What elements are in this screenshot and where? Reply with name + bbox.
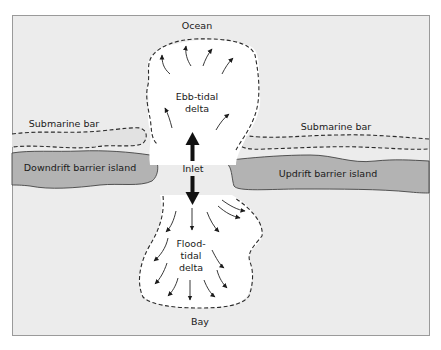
updrift-barrier-island-label: Updrift barrier island	[279, 168, 378, 179]
submarine-bar-right-label: Submarine bar	[301, 121, 371, 132]
inlet-label: Inlet	[182, 163, 203, 174]
ebb-tidal-delta-label-line1: Ebb-tidal	[176, 91, 218, 102]
flood-tidal-delta-label-line2: tidal	[181, 250, 202, 261]
ocean-label: Ocean	[182, 20, 212, 31]
flood-tidal-delta-label-line3: delta	[179, 262, 203, 273]
bay-label: Bay	[191, 316, 209, 327]
submarine-bar-right	[238, 135, 429, 149]
submarine-bar-left-label: Submarine bar	[29, 118, 99, 129]
downdrift-barrier-island-label: Downdrift barrier island	[24, 162, 136, 173]
flood-tidal-delta-label-line1: Flood-	[176, 238, 205, 249]
tidal-inlet-diagram: Ocean Bay Inlet Ebb-tidal delta Flood- t…	[0, 0, 441, 350]
ebb-tidal-delta-label-line2: delta	[185, 103, 209, 114]
